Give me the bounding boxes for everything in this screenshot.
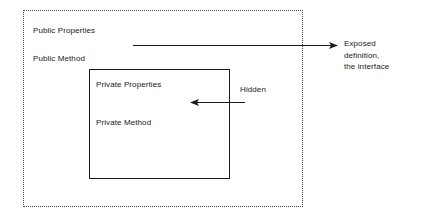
hidden-arrow (0, 0, 426, 221)
diagram-canvas: Public Properties Public Method Private … (0, 0, 426, 221)
